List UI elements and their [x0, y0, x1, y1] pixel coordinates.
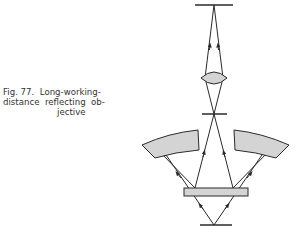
plate-mirror — [184, 188, 248, 196]
ray — [214, 5, 223, 78]
ray — [160, 152, 195, 188]
ray — [205, 5, 214, 78]
arrow-icon — [210, 45, 211, 50]
left-concave-mirror — [142, 130, 199, 158]
arrow-icon — [225, 205, 228, 209]
arrow-icon — [224, 152, 225, 157]
arrow-icon — [218, 45, 219, 50]
arrow-icon — [200, 205, 203, 209]
arrow-icon — [203, 152, 204, 157]
right-concave-mirror — [234, 130, 289, 158]
ray — [233, 152, 268, 188]
ray — [195, 114, 214, 188]
ray — [214, 114, 233, 188]
optical-diagram — [0, 0, 301, 238]
relay-lens — [201, 72, 227, 84]
